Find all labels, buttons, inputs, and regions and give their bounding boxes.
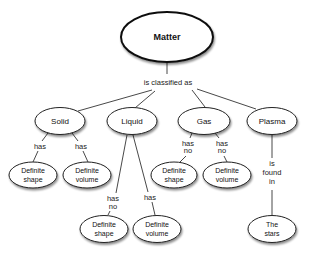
node-liquid-label: Liquid: [121, 117, 142, 126]
edge-link-plasma: [197, 89, 256, 109]
label-line1: Definite: [75, 167, 99, 174]
node-liquid-definite-shape: Definite shape: [80, 216, 128, 243]
link-is-classified-as: is classified as: [144, 78, 193, 87]
node-solid-definite-shape: Definite shape: [9, 162, 57, 188]
label-line1: Definite: [145, 221, 169, 228]
concept-map: Matter is classified as Solid Liquid Gas…: [0, 0, 311, 256]
node-plasma: Plasma: [247, 108, 297, 135]
edge-has2-volume: [83, 151, 88, 162]
link-liquid-has: has: [144, 193, 156, 202]
link-plasma-found: found: [263, 168, 282, 177]
edge-gas-hasno2: [215, 133, 219, 138]
node-plasma-label: Plasma: [259, 117, 286, 126]
label-line2: stars: [264, 230, 280, 237]
node-liquid: Liquid: [107, 108, 157, 135]
node-gas-definite-shape: Definite shape: [151, 162, 197, 188]
edge-link-gas: [192, 90, 205, 107]
edge-gas-hasno1: [190, 133, 192, 138]
node-gas: Gas: [178, 108, 230, 135]
label-line2: shape: [164, 176, 183, 184]
edge-solid-has1: [42, 133, 48, 141]
label-line2: shape: [23, 176, 42, 184]
edge-has-volume: [152, 202, 155, 215]
label-line1: Definite: [215, 167, 239, 174]
label-line1: Definite: [162, 167, 186, 174]
label-line2: volume: [76, 176, 99, 183]
label-line1: The: [266, 221, 278, 228]
edge-liquid-has: [133, 135, 148, 192]
link-liquid-has-no-l2: no: [109, 202, 117, 211]
edge-solid-has2: [72, 133, 78, 141]
link-plasma-is: is: [269, 159, 275, 168]
link-gas-has-no-1-l2: no: [184, 146, 192, 155]
node-solid: Solid: [35, 108, 85, 135]
node-matter-label: Matter: [153, 32, 181, 42]
edge-liquid-hasno: [116, 135, 127, 193]
edge-has1-shape: [33, 151, 38, 162]
link-solid-has-1: has: [34, 142, 46, 151]
edge-hasno1-shape: [180, 156, 186, 162]
link-solid-has-2: has: [75, 142, 87, 151]
link-gas-has-no-2-l2: no: [218, 146, 226, 155]
node-plasma-the-stars: The stars: [248, 216, 296, 243]
node-solid-definite-volume: Definite volume: [63, 162, 111, 188]
node-liquid-definite-volume: Definite volume: [133, 216, 181, 243]
node-solid-label: Solid: [51, 117, 69, 126]
edge-hasno2-volume: [224, 156, 227, 162]
link-plasma-in: in: [269, 177, 275, 186]
node-gas-label: Gas: [197, 117, 212, 126]
label-line2: volume: [146, 230, 169, 237]
node-matter: Matter: [121, 12, 213, 62]
label-line1: Definite: [21, 167, 45, 174]
node-gas-definite-volume: Definite volume: [203, 162, 251, 188]
label-line2: volume: [216, 176, 239, 183]
label-line1: Definite: [92, 221, 116, 228]
edge-hasno-shape: [108, 211, 110, 215]
label-line2: shape: [94, 230, 113, 238]
